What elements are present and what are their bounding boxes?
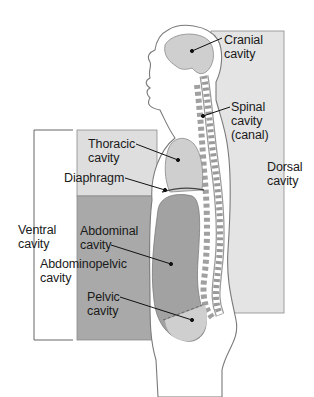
label-diaphragm: Diaphragm bbox=[64, 171, 124, 185]
label-abdominal-cavity: Abdominal cavity bbox=[80, 224, 138, 252]
label-spinal-cavity: Spinal cavity (canal) bbox=[231, 100, 269, 142]
label-abdominopelvic-cavity: Abdominopelvic cavity bbox=[40, 257, 127, 285]
label-pelvic-cavity: Pelvic cavity bbox=[87, 290, 120, 318]
diagram-artwork bbox=[0, 0, 314, 397]
label-dorsal-cavity: Dorsal cavity bbox=[267, 160, 303, 188]
label-ventral-cavity: Ventral cavity bbox=[18, 223, 56, 251]
label-cranial-cavity: Cranial cavity bbox=[224, 33, 263, 61]
label-thoracic-cavity: Thoracic cavity bbox=[88, 137, 135, 165]
body-cavities-diagram: Cranial cavity Spinal cavity (canal) Dor… bbox=[0, 0, 314, 397]
